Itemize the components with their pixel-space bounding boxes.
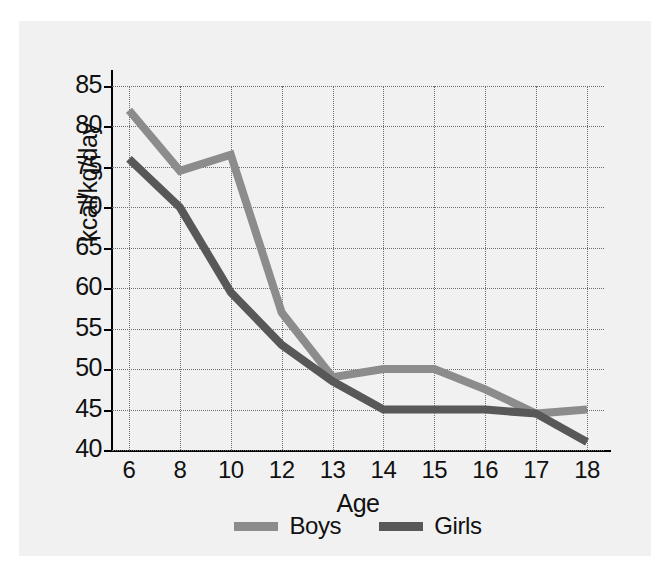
- y-axis-tick-label: 80: [58, 110, 102, 139]
- legend-swatch-boys: [234, 522, 278, 531]
- x-axis-tick-label: 15: [421, 456, 447, 484]
- legend-label: Girls: [434, 512, 481, 540]
- legend-label: Boys: [289, 512, 341, 540]
- y-axis-tick-label: 45: [58, 394, 102, 423]
- y-axis-tick-mark: [104, 288, 112, 290]
- y-axis-tick-label: 85: [58, 70, 102, 99]
- x-axis-tick-label: 13: [320, 456, 346, 484]
- y-axis-tick-mark: [104, 369, 112, 371]
- y-axis-tick-label: 50: [58, 353, 102, 382]
- y-axis-tick-label: 65: [58, 232, 102, 261]
- y-axis-tick-mark: [104, 86, 112, 88]
- y-axis-tick-mark: [104, 167, 112, 169]
- series-container: [112, 86, 604, 450]
- x-axis-tick-label: 12: [269, 456, 295, 484]
- series-line-boys: [129, 110, 587, 413]
- y-axis-tick-label: 40: [58, 434, 102, 463]
- plot-area: [112, 86, 604, 450]
- chart-figure: kcal/kg/day Age 85807570656055504540 681…: [0, 0, 669, 584]
- y-axis-tick-mark: [104, 248, 112, 250]
- x-axis-tick-label: 16: [472, 456, 498, 484]
- legend-item-boys[interactable]: Boys: [234, 512, 341, 540]
- x-axis-tick-label: 6: [123, 456, 136, 484]
- series-line-girls: [129, 159, 587, 442]
- y-axis-tick-mark: [104, 207, 112, 209]
- x-axis-tick-label: 17: [523, 456, 549, 484]
- x-axis-tick-label: 14: [371, 456, 397, 484]
- legend-item-girls[interactable]: Girls: [379, 512, 481, 540]
- y-axis-tick-label: 60: [58, 272, 102, 301]
- y-axis-tick-mark: [104, 126, 112, 128]
- x-axis-tick-label: 10: [218, 456, 244, 484]
- y-axis-tick-mark: [104, 329, 112, 331]
- y-axis-tick-label: 55: [58, 313, 102, 342]
- y-axis-tick-label: 70: [58, 191, 102, 220]
- chart-legend: BoysGirls: [112, 512, 604, 540]
- legend-swatch-girls: [379, 522, 423, 531]
- x-axis-tick-label: 18: [574, 456, 600, 484]
- gridline-horizontal: [112, 450, 604, 451]
- y-axis-tick-mark: [104, 450, 112, 452]
- y-axis-tick-mark: [104, 410, 112, 412]
- x-axis-tick-label: 8: [173, 456, 186, 484]
- y-axis-tick-label: 75: [58, 151, 102, 180]
